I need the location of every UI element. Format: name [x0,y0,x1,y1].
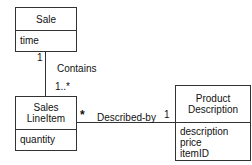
attribute-quantity: quantity [20,134,74,145]
multiplicity-product-1: 1 [164,109,170,120]
attribute-description: description [180,126,248,137]
attribute-item-id: itemID [180,148,248,159]
class-sale-attributes: time [20,35,74,46]
association-contains-line [45,52,46,96]
class-sales-line-item: Sales LineItem quantity [15,96,77,151]
class-sales-line-item-header: Sales LineItem [16,97,76,130]
class-sales-line-item-name-1: Sales [33,102,58,113]
association-described-by-label: Described-by [97,112,156,123]
class-product-description-name-1: Product [196,93,230,104]
class-sale: Sale time [15,7,77,52]
association-contains-label: Contains [57,63,96,74]
class-sale-name: Sale [36,14,56,25]
class-product-description-name-2: Description [188,104,238,115]
multiplicity-lineitem-1-many: 1..* [55,81,70,92]
class-product-description-attributes: description price itemID [180,126,248,159]
class-product-description: Product Description description price it… [175,85,251,161]
class-product-description-header: Product Description [176,86,250,123]
class-sale-header: Sale [16,8,76,31]
attribute-price: price [180,137,248,148]
multiplicity-lineitem-many: * [80,110,85,121]
class-sales-line-item-attributes: quantity [20,134,74,145]
class-sales-line-item-name-2: LineItem [27,113,65,124]
attribute-time: time [20,35,74,46]
multiplicity-sale-1: 1 [37,52,43,63]
